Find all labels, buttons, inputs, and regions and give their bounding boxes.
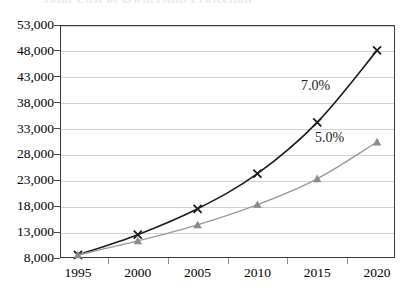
chart-figure: Total Cost of Ownership Projection 8,000… (0, 0, 410, 298)
series-line (78, 142, 377, 255)
data-point-marker-x (194, 205, 202, 213)
series-line (78, 50, 377, 255)
series-1 (74, 46, 381, 259)
data-point-marker-triangle (313, 175, 321, 183)
data-point-marker-x (253, 170, 261, 178)
series-2 (74, 138, 382, 258)
series-annotation-1: 7.0% (301, 79, 330, 93)
data-point-marker-x (313, 118, 321, 126)
data-point-marker-triangle (373, 138, 381, 146)
data-point-marker-x (373, 46, 381, 54)
series-overlay (0, 0, 410, 298)
series-annotation-2: 5.0% (315, 131, 344, 145)
